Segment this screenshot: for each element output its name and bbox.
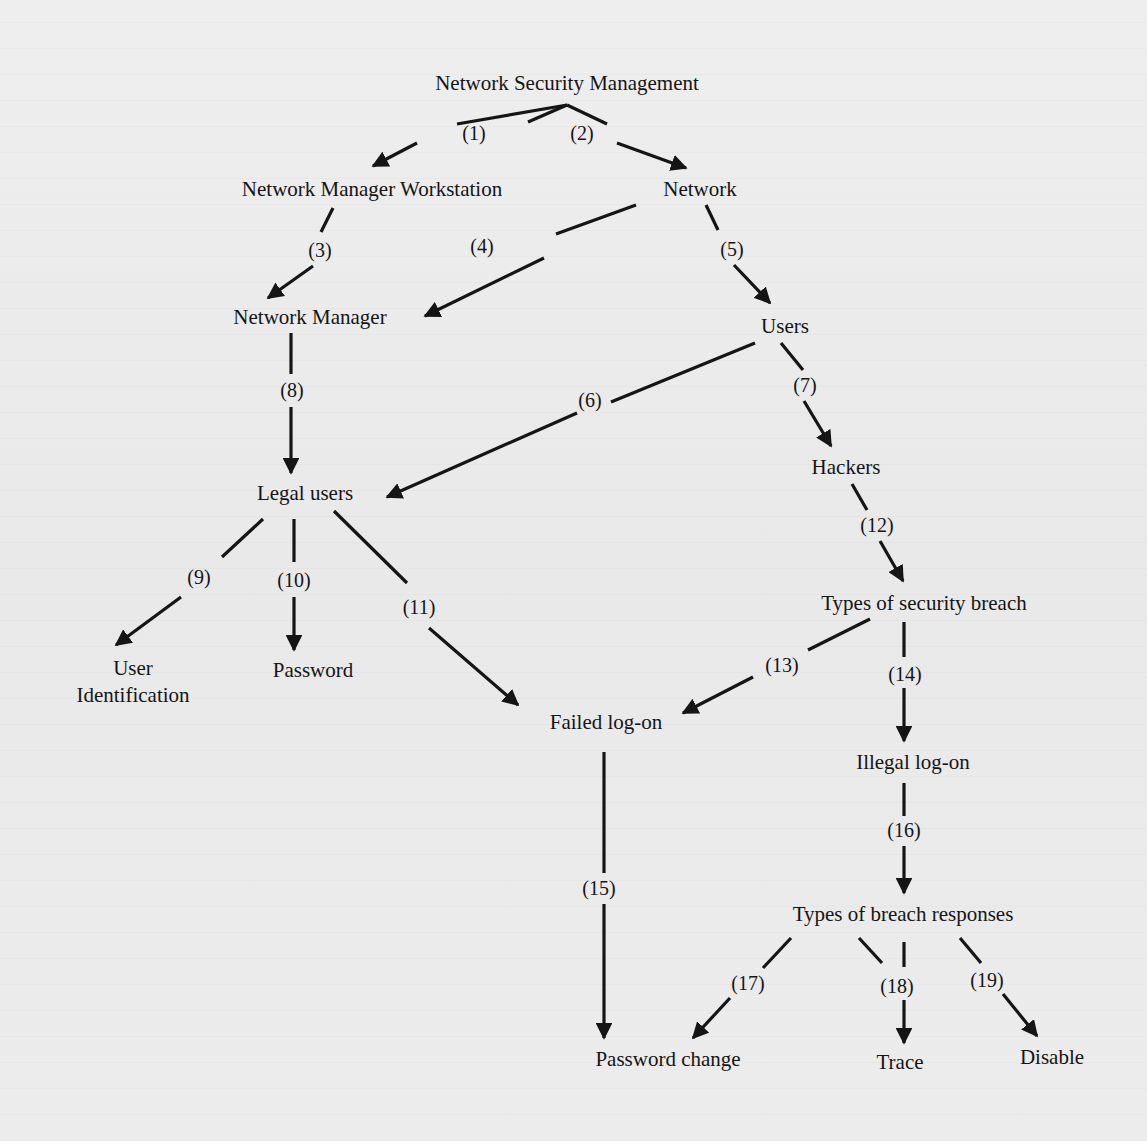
node-user-identification-line1: User	[76, 655, 189, 682]
edge-label-14: (14)	[888, 663, 921, 686]
edge-label-5: (5)	[720, 238, 743, 261]
edge-label-15: (15)	[582, 877, 615, 900]
node-legal-users: Legal users	[257, 480, 353, 507]
node-network-manager-workstation: Network Manager Workstation	[242, 176, 502, 203]
node-disable: Disable	[1020, 1044, 1084, 1071]
node-user-identification-line2: Identification	[76, 682, 189, 709]
edge-label-1: (1)	[462, 122, 485, 145]
edge-label-8: (8)	[280, 379, 303, 402]
edge-label-13: (13)	[765, 654, 798, 677]
node-network-security-management: Network Security Management	[435, 70, 699, 97]
node-network: Network	[663, 176, 736, 203]
node-hackers: Hackers	[812, 454, 881, 481]
edge-4	[425, 205, 636, 316]
node-user-identification: User Identification	[76, 655, 189, 710]
node-failed-log-on: Failed log-on	[550, 709, 663, 736]
edge-label-11: (11)	[403, 596, 436, 619]
edge-label-3: (3)	[308, 239, 331, 262]
node-trace: Trace	[876, 1049, 923, 1076]
node-password-change: Password change	[595, 1046, 740, 1073]
edge-6	[387, 343, 755, 497]
node-network-manager: Network Manager	[233, 304, 386, 331]
edge-label-7: (7)	[793, 374, 816, 397]
edge-label-17: (17)	[731, 972, 764, 995]
node-types-of-breach-responses: Types of breach responses	[793, 901, 1014, 928]
node-types-of-security-breach: Types of security breach	[821, 590, 1027, 617]
edge-label-19: (19)	[970, 969, 1003, 992]
node-illegal-log-on: Illegal log-on	[856, 749, 970, 776]
edge-label-2: (2)	[570, 122, 593, 145]
edge-2	[528, 105, 686, 168]
edge-label-12: (12)	[860, 514, 893, 537]
edge-label-9: (9)	[187, 566, 210, 589]
node-password: Password	[273, 657, 354, 684]
node-users: Users	[761, 313, 809, 340]
edge-19	[859, 938, 882, 963]
edge-label-16: (16)	[887, 819, 920, 842]
edge-label-10: (10)	[277, 569, 310, 592]
edge-label-6: (6)	[578, 389, 601, 412]
edge-label-4: (4)	[470, 235, 493, 258]
edge-label-18: (18)	[880, 975, 913, 998]
